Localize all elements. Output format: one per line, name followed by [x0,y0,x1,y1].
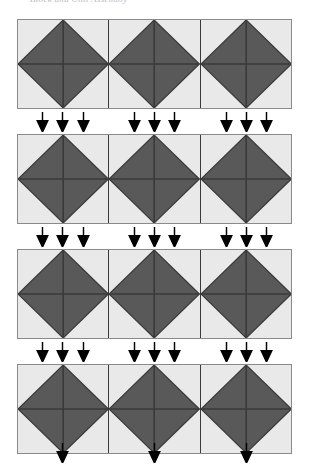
quilt-block[interactable] [201,250,291,338]
diamond-block-icon [109,135,199,223]
quilt-block[interactable] [18,20,109,108]
down-arrow-icon [56,112,69,132]
down-arrow-icon [77,227,90,247]
diamond-block-icon [18,250,108,338]
block-strip-row-2 [17,134,292,224]
arrow-group [200,340,292,364]
quilt-block[interactable] [18,250,109,338]
diamond-block-icon [201,365,291,453]
diamond-block-icon [109,365,199,453]
down-arrow-icon [240,112,253,132]
down-arrow-icon [260,227,273,247]
quilt-block[interactable] [109,20,200,108]
assembly-arrow-band [17,441,292,465]
quilt-block[interactable] [201,365,291,453]
quilt-block[interactable] [109,250,200,338]
diamond-block-icon [109,250,199,338]
arrow-group [200,441,292,465]
arrow-group [17,110,109,134]
down-arrow-icon [36,342,49,362]
down-arrow-icon [220,112,233,132]
down-arrow-icon [260,112,273,132]
arrow-group [109,110,201,134]
quilt-block[interactable] [18,365,109,453]
down-arrow-icon [148,342,161,362]
down-arrow-icon [56,443,69,463]
diamond-block-icon [18,20,108,108]
down-arrow-icon [128,112,141,132]
quilt-block[interactable] [18,135,109,223]
diamond-block-icon [201,250,291,338]
down-arrow-icon [220,342,233,362]
assembly-arrow-band [17,225,292,249]
diamond-block-icon [18,365,108,453]
down-arrow-icon [148,227,161,247]
down-arrow-icon [56,227,69,247]
diamond-block-icon [109,20,199,108]
down-arrow-icon [128,342,141,362]
assembly-arrow-band [17,340,292,364]
down-arrow-icon [168,342,181,362]
down-arrow-icon [148,443,161,463]
down-arrow-icon [240,227,253,247]
down-arrow-icon [36,112,49,132]
block-strip-row-1 [17,19,292,109]
down-arrow-icon [148,112,161,132]
down-arrow-icon [77,112,90,132]
block-strip-row-3 [17,249,292,339]
quilt-block[interactable] [201,20,291,108]
down-arrow-icon [56,342,69,362]
arrow-group [17,225,109,249]
down-arrow-icon [168,227,181,247]
diamond-block-icon [201,135,291,223]
down-arrow-icon [220,227,233,247]
quilt-assembly-diagram [0,0,310,471]
arrow-group [200,225,292,249]
down-arrow-icon [128,227,141,247]
quilt-block[interactable] [109,135,200,223]
down-arrow-icon [240,342,253,362]
quilt-block[interactable] [109,365,200,453]
diamond-block-icon [18,135,108,223]
quilt-block[interactable] [201,135,291,223]
arrow-group [200,110,292,134]
assembly-arrow-band [17,110,292,134]
arrow-group [17,441,109,465]
down-arrow-icon [77,342,90,362]
arrow-group [109,225,201,249]
arrow-group [109,340,201,364]
down-arrow-icon [240,443,253,463]
down-arrow-icon [168,112,181,132]
down-arrow-icon [260,342,273,362]
down-arrow-icon [36,227,49,247]
diamond-block-icon [201,20,291,108]
arrow-group [109,441,201,465]
arrow-group [17,340,109,364]
